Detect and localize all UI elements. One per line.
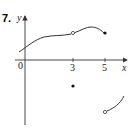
- open-circle-x5: [103, 110, 106, 113]
- tick-label-5: 5: [102, 62, 107, 73]
- curve-middle-branch: [75, 27, 104, 33]
- origin-label: 0: [18, 60, 23, 71]
- curve-right-branch: [107, 96, 124, 111]
- x-axis-label: x: [121, 62, 127, 73]
- tick-label-3: 3: [70, 62, 75, 73]
- curve-left-branch: [19, 34, 71, 52]
- graph: 7. y x 0 3 5: [0, 0, 136, 131]
- y-axis-label: y: [16, 12, 22, 23]
- open-circle-x3: [71, 31, 74, 34]
- problem-number: 7.: [2, 12, 11, 24]
- filled-dot-x5: [103, 31, 106, 34]
- filled-dot-x3: [71, 84, 74, 87]
